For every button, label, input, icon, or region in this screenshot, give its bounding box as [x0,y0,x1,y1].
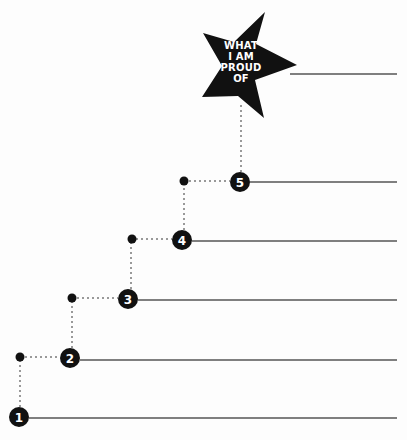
step-3: 3 [118,289,138,309]
step-2-number: 2 [66,352,74,366]
step-1-number: 1 [15,411,23,425]
corner-dot [68,294,77,303]
step-1: 1 [9,407,29,427]
writing-lines [29,74,397,418]
staircase-diagram: 1 2 3 4 5 WHAT I AM PROUD OF [0,0,407,440]
goal-label-line-2: I AM [228,51,254,62]
corner-dot [180,177,189,186]
corner-dot [16,353,25,362]
corner-dots [16,177,189,362]
step-5: 5 [230,172,250,192]
step-2: 2 [60,348,80,368]
step-5-number: 5 [236,176,244,190]
step-4: 4 [172,230,192,250]
goal-label-line-4: OF [233,73,249,84]
step-3-number: 3 [124,293,132,307]
goal-label-line-3: PROUD [221,62,262,73]
goal-label-line-1: WHAT [224,40,258,51]
corner-dot [128,235,137,244]
step-4-number: 4 [178,234,186,248]
dotted-connectors [20,102,241,407]
goal-star: WHAT I AM PROUD OF [202,12,297,118]
